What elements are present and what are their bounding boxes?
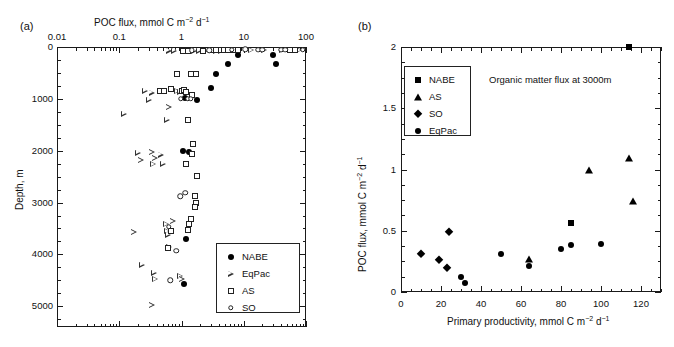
data-point-eqpac [598,241,604,247]
axis-tick [601,47,602,53]
axis-tick [57,164,61,165]
legend-symbol-open-circle [226,303,235,312]
data-point-so [188,96,194,102]
data-point-so [300,47,306,53]
axis-tick [230,324,231,328]
axis-tick [651,289,652,293]
data-point-eqpac [248,47,254,53]
legend-item-eqpac: EqPac [413,126,457,136]
data-point-eqpac [164,117,170,123]
axis-tick [105,324,106,328]
axis-tick [241,324,242,328]
axis-tick [521,286,522,292]
tick-label: 2000 [32,145,53,156]
data-point-as [185,117,191,123]
axis-tick [611,289,612,293]
data-point-as [185,227,191,233]
tick-label: 4000 [32,248,53,259]
axis-tick [116,324,117,328]
axis-tick [57,241,61,242]
axis-tick [581,47,582,51]
axis-tick [57,47,63,48]
panel-b-x-axis-title: Primary productivity, mmol C m−2 d−1 [447,315,609,327]
axis-tick [57,267,61,268]
axis-tick [655,108,661,109]
legend-symbol-filled-circle [226,252,235,261]
data-point-eqpac [568,242,574,248]
axis-tick [57,99,63,100]
axis-tick [481,286,482,292]
axis-tick [273,324,274,328]
axis-tick [110,47,111,51]
axis-tick [163,47,164,51]
axis-tick [244,321,245,327]
axis-tick [551,289,552,293]
legend-label: NABE [429,75,455,85]
axis-tick [303,138,307,139]
axis-tick [57,151,63,152]
data-point-eqpac [462,280,468,286]
data-point-nabe [273,61,279,67]
data-point-eqpac [152,276,158,282]
axis-tick [300,324,301,328]
data-point-so [183,190,189,196]
axis-tick [105,47,106,51]
data-point-as [192,193,198,199]
axis-tick [119,321,120,327]
axis-tick [57,190,61,191]
axis-tick [292,324,293,328]
axis-tick [641,286,642,292]
axis-tick [57,177,61,178]
axis-tick [401,170,407,171]
axis-tick [401,215,405,216]
axis-tick [113,47,114,51]
axis-tick [531,289,532,293]
axis-tick [87,47,88,51]
axis-tick [658,185,662,186]
axis-tick [658,246,662,247]
axis-tick [94,324,95,328]
axis-tick [658,154,662,155]
axis-tick [401,185,405,186]
panel-a-x-axis-title: POC flux, mmol C m−2 d−1 [94,16,209,28]
axis-tick [300,151,306,152]
axis-tick [641,47,642,53]
axis-tick [306,321,307,327]
axis-tick [303,241,307,242]
axis-tick [303,125,307,126]
panel-a-label: (a) [20,20,33,32]
axis-tick [57,86,61,87]
axis-tick [262,324,263,328]
data-point-as [174,71,180,77]
tick-label: 0 [391,286,396,297]
legend-item-so: SO [413,109,443,119]
axis-tick [303,267,307,268]
axis-tick [655,47,661,48]
data-point-eqpac [151,270,157,276]
data-point-nabe [213,71,219,77]
axis-tick [541,289,542,293]
axis-tick [300,254,306,255]
legend-item-nabe: NABE [413,75,455,85]
data-point-so [166,224,172,230]
axis-tick [431,47,432,51]
tick-label: 10 [238,31,249,42]
marker-filled-triangle-up [414,93,422,100]
tick-label: 0.5 [383,225,396,236]
axis-tick [149,324,150,328]
axis-tick [303,228,307,229]
panel-a-legend: NABEEqPacASSO [216,243,300,313]
axis-tick [57,138,61,139]
data-point-as [189,151,195,157]
axis-tick [234,324,235,328]
axis-tick [172,324,173,328]
axis-tick [287,324,288,328]
axis-tick [300,203,306,204]
data-point-as [183,161,189,167]
axis-tick [401,231,407,232]
tick-label: 100 [298,31,314,42]
data-point-nabe [194,97,200,103]
data-point-nabe [568,220,574,226]
data-point-as [292,47,298,53]
axis-tick [163,324,164,328]
